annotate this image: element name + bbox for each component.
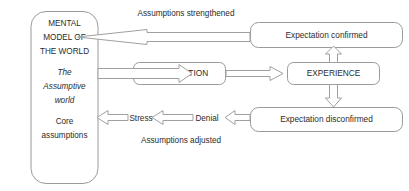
expectation-confirmed-label: Expectation confirmed (285, 30, 367, 40)
label-stress: Stress (129, 114, 152, 123)
label-assumptions-strengthened: Assumptions strengthened (138, 9, 235, 18)
arrow-disconfirmed-to-denial (225, 111, 250, 125)
mental-model-line-4: The (57, 68, 72, 77)
expectation-disconfirmed-label: Expectation disconfirmed (280, 114, 373, 124)
arrow-expectation-to-experience (226, 67, 283, 81)
mental-model-line-1: MENTAL (48, 19, 81, 28)
arrow-experience-to-disconfirmed (326, 85, 342, 108)
mental-model-line-5: Assumptive (42, 82, 86, 91)
arrow-stress-to-mental-model (97, 111, 128, 125)
diagram-canvas: MENTAL MODEL OF THE WORLD The Assumptive… (0, 0, 409, 191)
experience-box-label: EXPERIENCE (307, 68, 361, 78)
mental-model-line-7: Core (56, 117, 74, 126)
mental-model-line-6: world (55, 96, 75, 105)
mental-model-line-8: assumptions (42, 131, 88, 140)
arrow-experience-to-confirmed (326, 46, 342, 63)
diagram-svg: MENTAL MODEL OF THE WORLD The Assumptive… (0, 0, 409, 191)
label-denial: Denial (195, 114, 218, 123)
label-assumptions-adjusted: Assumptions adjusted (141, 136, 222, 145)
arrow-confirmed-to-mental-model (78, 30, 251, 45)
arrow-denial-to-stress (152, 111, 193, 125)
mental-model-line-3: THE WORLD (40, 47, 89, 56)
